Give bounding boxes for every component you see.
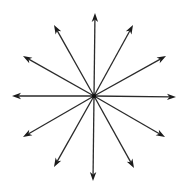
arrow-90deg (92, 13, 98, 96)
arrow-shaft (94, 96, 170, 97)
arrow-0deg (94, 94, 176, 100)
center-point (92, 94, 96, 98)
arrowhead-icon (157, 56, 166, 63)
arrowhead-icon (126, 25, 133, 34)
arrowhead-icon (54, 158, 61, 167)
arrow-180deg (12, 93, 94, 99)
arrowhead-icon (156, 130, 165, 137)
arrow-270deg (90, 96, 96, 181)
arrowhead-icon (54, 25, 61, 34)
arrowhead-icon (23, 130, 32, 137)
arrow-shaft (57, 96, 94, 161)
arrow-240deg (54, 96, 94, 167)
radial-arrows-diagram (0, 0, 184, 190)
arrowhead-icon (23, 56, 32, 63)
arrow-210deg (23, 96, 94, 137)
arrowhead-icon (127, 159, 134, 168)
arrow-shaft (94, 19, 95, 96)
arrow-shaft (93, 96, 94, 175)
arrow-shaft (29, 96, 94, 134)
